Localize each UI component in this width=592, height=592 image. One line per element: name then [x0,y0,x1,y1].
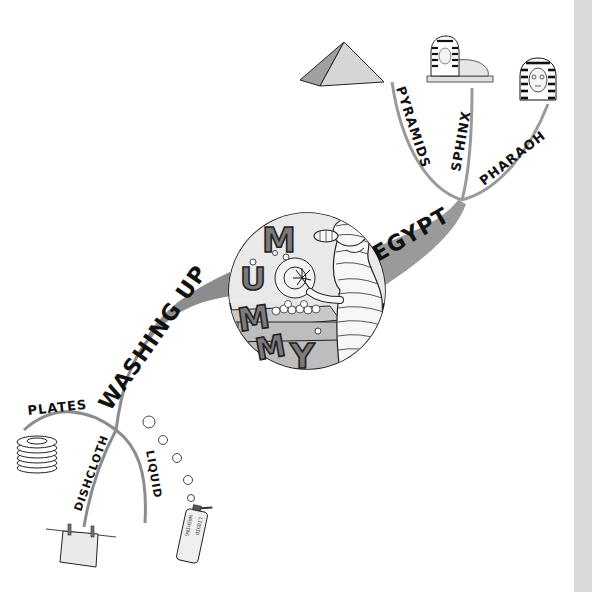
pharaoh-label: PHARAOH [477,128,549,189]
dishcloth-icon [46,524,116,567]
mind-map-canvas: EGYPT PYRAMIDS SPHINX PHARAOH [0,0,592,592]
central-letter-y: Y [289,336,315,376]
egypt-branch: EGYPT PYRAMIDS SPHINX PHARAOH [368,82,548,286]
central-letter-m3: M [253,328,288,368]
washing-up-label: WASHING UP [94,261,212,415]
pyramids-label: PYRAMIDS [393,84,434,169]
plates-label: PLATES [27,397,88,418]
dishcloth-label: DISHCLOTH [72,433,112,513]
washing-up-branch: WASHING UP PLATES DISHCLOTH LIQUID [24,261,232,527]
central-letter-m1: M [262,220,296,260]
liquid-branch-line [116,430,145,523]
sphinx-icon [427,36,493,82]
pharaoh-branch-line [462,104,548,200]
washing-liquid-bottle-icon: WASHING LIQUID [176,502,213,564]
pyramid-icon [300,42,384,86]
plates-stack-icon [17,436,57,473]
central-image: M U M M Y [228,213,388,376]
pharaoh-icon [520,58,556,100]
central-letter-u: U [240,260,266,298]
